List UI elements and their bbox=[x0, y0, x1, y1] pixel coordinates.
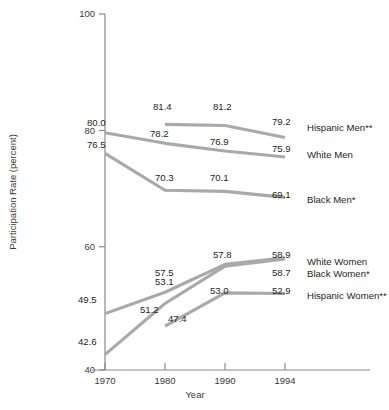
series-lines-group bbox=[105, 124, 285, 354]
point-label: 76.9 bbox=[210, 136, 229, 147]
series-label-hispanic-men: Hispanic Men** bbox=[307, 122, 373, 133]
series-label-black-men: Black Men* bbox=[307, 194, 356, 205]
x-tick-label-1980: 1980 bbox=[154, 375, 175, 386]
point-label: 57.8 bbox=[213, 249, 232, 260]
series-line-black-men bbox=[105, 153, 285, 197]
x-tick-label-1994: 1994 bbox=[274, 375, 295, 386]
x-tick-label-1990: 1990 bbox=[214, 375, 235, 386]
point-label: 57.5 bbox=[155, 267, 174, 278]
point-label: 52.9 bbox=[272, 285, 291, 296]
series-line-white-men bbox=[105, 133, 285, 157]
y-axis-ticks: 406080100 bbox=[79, 8, 105, 375]
point-label: 58.9 bbox=[272, 249, 291, 260]
point-label: 58.7 bbox=[272, 267, 291, 278]
y-tick-label-100: 100 bbox=[79, 8, 95, 19]
series-name-labels-group: Hispanic Men**White MenBlack Men*White W… bbox=[307, 122, 387, 301]
point-label: 81.4 bbox=[153, 101, 172, 112]
series-label-white-women: White Women bbox=[307, 256, 367, 267]
point-label: 78.2 bbox=[150, 128, 169, 139]
y-axis-title: Participation Rate (percent) bbox=[7, 134, 18, 250]
x-axis: 1970198019901994 Year bbox=[92, 363, 370, 400]
point-value-labels-group: 81.481.279.280.078.276.975.976.570.370.1… bbox=[78, 101, 291, 347]
point-label: 79.2 bbox=[272, 116, 291, 127]
point-label: 81.2 bbox=[213, 101, 232, 112]
point-label: 75.9 bbox=[272, 143, 291, 154]
point-label: 69.1 bbox=[272, 189, 291, 200]
point-label: 49.5 bbox=[78, 294, 97, 305]
point-label: 51.2 bbox=[140, 304, 159, 315]
x-axis-title: Year bbox=[185, 389, 204, 400]
point-label: 70.3 bbox=[155, 172, 174, 183]
y-tick-label-60: 60 bbox=[84, 241, 95, 252]
series-label-hispanic-women: Hispanic Women** bbox=[307, 290, 387, 301]
y-axis: 406080100 Participation Rate (percent) bbox=[7, 8, 105, 375]
point-label: 80.0 bbox=[87, 117, 106, 128]
x-axis-ticks: 1970198019901994 bbox=[94, 363, 295, 386]
chart-container: 406080100 Participation Rate (percent) 1… bbox=[0, 0, 389, 410]
series-label-black-women: Black Women* bbox=[307, 268, 370, 279]
participation-rate-line-chart: 406080100 Participation Rate (percent) 1… bbox=[0, 0, 389, 410]
x-tick-label-1970: 1970 bbox=[94, 375, 115, 386]
point-label: 47.4 bbox=[168, 313, 187, 324]
point-label: 70.1 bbox=[210, 172, 229, 183]
series-line-black-women bbox=[105, 259, 285, 355]
series-label-white-men: White Men bbox=[307, 149, 353, 160]
point-label: 76.5 bbox=[87, 139, 106, 150]
point-label: 42.6 bbox=[78, 336, 97, 347]
point-label: 53.0 bbox=[210, 285, 229, 296]
